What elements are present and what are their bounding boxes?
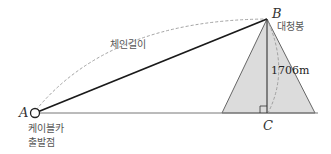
point-label-a: A <box>19 106 28 119</box>
start-point-marker <box>31 109 40 118</box>
height-label: 1706m <box>271 65 309 76</box>
start-label-line1: 케이블카 <box>28 124 64 134</box>
start-label-line2: 출발점 <box>28 138 55 148</box>
chain-length-label: 체인길이 <box>110 40 146 50</box>
point-label-c: C <box>263 119 273 132</box>
peak-name-label: 대청봉 <box>277 22 304 32</box>
point-label-b: B <box>272 7 282 20</box>
